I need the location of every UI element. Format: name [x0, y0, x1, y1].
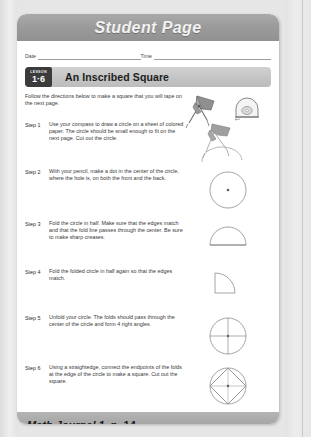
- footer-reference: Math Journal 1, p. 14: [27, 419, 136, 424]
- lesson-title-bar: LESSON 1·6 An Inscribed Square: [25, 67, 271, 87]
- step-figure-inscribed-square: [187, 364, 271, 409]
- step-label: Step 6: [25, 364, 49, 371]
- step-item: Step 1 Use your compass to draw a circle…: [25, 121, 271, 168]
- lesson-title: An Inscribed Square: [52, 71, 169, 83]
- step-item: Step 5 Unfold your circle. The folds sho…: [25, 314, 271, 364]
- intro-text: Follow the directions below to make a sq…: [25, 93, 185, 107]
- steps-list: Step 1 Use your compass to draw a circle…: [25, 121, 271, 412]
- step-label: Step 2: [25, 168, 49, 175]
- step-item: Step 4 Fold the folded circle in half ag…: [25, 268, 271, 314]
- student-page-sheet: Student Page Date Time LESSON 1·6: [17, 14, 279, 424]
- step-item: Step 3 Fold the circle in half. Make sur…: [25, 220, 271, 268]
- date-label: Date: [25, 53, 38, 60]
- date-field[interactable]: Date: [25, 53, 141, 60]
- step-text: Unfold your circle. The folds should pas…: [49, 314, 187, 328]
- sheet-header: Student Page: [17, 14, 279, 41]
- footer-journal-name: Math Journal 1: [27, 419, 105, 424]
- step-item: Step 2 With your pencil, make a dot in t…: [25, 168, 271, 220]
- lesson-badge: LESSON 1·6: [25, 67, 52, 87]
- step-text: With your pencil, make a dot in the cent…: [49, 168, 187, 182]
- step-text: Use your compass to draw a circle on a s…: [49, 121, 187, 143]
- sheet-footer: Math Journal 1, p. 14: [17, 412, 279, 424]
- tape-dispenser-illustration: [233, 95, 261, 121]
- time-label: Time: [141, 53, 154, 60]
- page-left-edge-shading: [0, 0, 17, 437]
- step-label: Step 3: [25, 220, 49, 227]
- step-text: Fold the folded circle in half again so …: [49, 268, 187, 282]
- step-figure-compass-drawing: [187, 121, 271, 168]
- date-time-row: Date Time: [25, 47, 271, 60]
- step-text: Fold the circle in half. Make sure that …: [49, 220, 187, 242]
- step-figure-circle-with-dot: [187, 168, 271, 213]
- step-figure-half-circle: [187, 220, 271, 253]
- step-item: Step 6 Using a straightedge, connect the…: [25, 364, 271, 412]
- step-text: Using a straightedge, connect the endpoi…: [49, 364, 187, 386]
- time-field[interactable]: Time: [141, 53, 271, 60]
- footer-page-number: , p. 14: [105, 419, 136, 424]
- page-title: Student Page: [94, 19, 201, 37]
- lesson-badge-number: 1·6: [32, 74, 45, 84]
- page-divider-rule: [302, 0, 303, 437]
- step-label: Step 5: [25, 314, 49, 321]
- sheet-body: Date Time LESSON 1·6 An Inscribed Square…: [17, 41, 279, 412]
- page-right-edge-shading: [285, 0, 311, 437]
- screenshot-root: Student Page Date Time LESSON 1·6: [0, 0, 311, 437]
- step-figure-quarter-circle: [187, 268, 271, 299]
- step-figure-circle-folds: [187, 314, 271, 359]
- step-label: Step 4: [25, 268, 49, 275]
- time-rule: [154, 59, 271, 60]
- step-label: Step 1: [25, 121, 49, 128]
- date-rule: [38, 59, 141, 60]
